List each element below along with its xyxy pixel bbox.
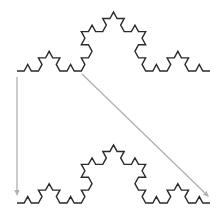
arrow-diagonal-shaft [82, 74, 205, 193]
koch-curve-bottom [17, 145, 210, 203]
koch-curve-top [17, 12, 210, 71]
arrow-diagonal [82, 74, 209, 197]
koch-diagram [0, 0, 222, 214]
arrow-head-icon [14, 190, 19, 196]
arrow-vertical [14, 77, 19, 196]
